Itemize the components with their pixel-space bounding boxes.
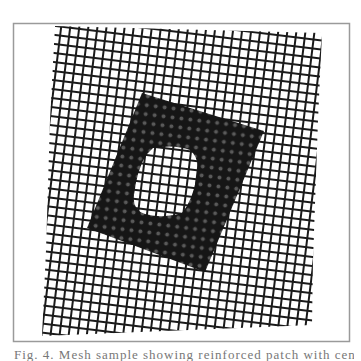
figure-caption: Fig. 4. Mesh sample showing reinforced p… — [14, 347, 354, 361]
